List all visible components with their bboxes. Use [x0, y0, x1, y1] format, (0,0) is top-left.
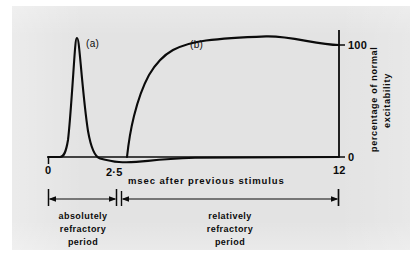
span-relative-line1: relatively: [190, 210, 270, 223]
curve-b-excitability-recovery: [127, 36, 339, 157]
span-relative-caption: relatively refractory period: [190, 210, 270, 249]
span-absolute-caption: absolutely refractory period: [44, 210, 122, 249]
span-relative-arrowhead-left: [122, 196, 130, 202]
y-axis-title-line2: excitability: [382, 56, 393, 146]
x-tick-label-12: 12: [333, 165, 346, 176]
span-relative-line2: refractory: [190, 223, 270, 236]
y-tick-label-100: 100: [348, 40, 367, 51]
curve-a-tag: (a): [86, 39, 99, 49]
span-relative-arrowhead-right: [331, 196, 339, 202]
span-absolute-arrowhead-left: [49, 196, 57, 202]
x-axis-title: msec after previous stimulus: [128, 176, 285, 186]
curve-b-tag: (b): [190, 40, 203, 50]
figure-root: 0 2·5 12 100 0 (a) (b) msec after previo…: [0, 0, 420, 267]
x-tick-label-2-5: 2·5: [106, 167, 123, 178]
x-tick-label-0: 0: [45, 165, 51, 176]
y-tick-label-0: 0: [348, 152, 354, 163]
span-absolute-line2: refractory: [44, 223, 122, 236]
span-absolute-line3: period: [44, 236, 122, 249]
span-relative-line3: period: [190, 236, 270, 249]
y-axis-title-line1: percentage of normal: [369, 36, 380, 162]
span-absolute-arrowhead-right: [109, 196, 117, 202]
span-absolute-line1: absolutely: [44, 210, 122, 223]
curve-a-action-potential: [48, 38, 339, 162]
